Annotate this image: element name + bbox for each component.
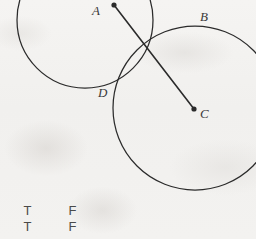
answer-option-false[interactable]: F xyxy=(54,204,91,217)
point-a-dot xyxy=(111,2,116,7)
segment-a-to-c xyxy=(114,5,194,109)
point-label-c: C xyxy=(200,107,209,120)
answer-option-true[interactable]: T xyxy=(9,204,46,217)
answer-row: T F xyxy=(0,218,256,234)
point-c-dot xyxy=(191,106,196,111)
answer-option-true[interactable]: T xyxy=(9,220,46,233)
answer-row: T F xyxy=(0,202,256,218)
true-false-answer-grid: T F T F xyxy=(0,202,256,234)
point-label-b: B xyxy=(200,10,208,23)
point-label-d: D xyxy=(98,86,107,99)
point-label-a: A xyxy=(92,4,100,17)
answer-option-false[interactable]: F xyxy=(54,220,91,233)
scanned-geometry-figure-page: A B C D T F T F xyxy=(0,0,256,239)
circle-left xyxy=(17,0,153,88)
circle-right xyxy=(113,26,256,190)
